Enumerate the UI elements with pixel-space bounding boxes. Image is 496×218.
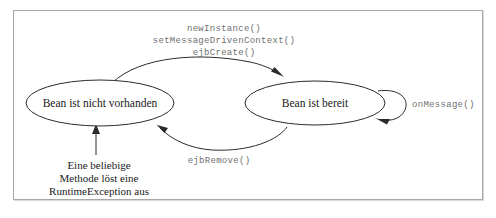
transition-create (112, 57, 284, 83)
create-label-line-3: ejbCreate() (193, 48, 256, 58)
create-arrowhead (271, 67, 284, 77)
state-ready-label: Bean ist bereit (282, 97, 349, 109)
state-diagram: Bean ist nicht vorhanden Bean ist bereit… (0, 0, 496, 218)
diagram-canvas: Bean ist nicht vorhanden Bean ist bereit… (0, 0, 496, 218)
state-not-existing[interactable]: Bean ist nicht vorhanden (26, 80, 174, 126)
transition-remove (155, 123, 287, 150)
create-arc-path (112, 57, 280, 83)
create-label-line-1: newInstance() (187, 24, 261, 34)
create-label-line-2: setMessageDrivenContext() (153, 36, 296, 46)
note-line-2: Methode löst eine (60, 172, 139, 184)
self-loop-arrowhead (375, 118, 390, 125)
transition-runtime-exception (92, 124, 100, 155)
note-line-1: Eine beliebige (67, 159, 130, 171)
remove-arc-path (160, 127, 287, 150)
runtime-exception-note: Eine beliebige Methode löst eine Runtime… (49, 159, 149, 197)
remove-transition-label: ejbRemove() (188, 156, 251, 166)
remove-arrowhead (155, 123, 168, 133)
self-loop-transition-label: onMessage() (412, 100, 475, 110)
state-not-existing-label: Bean ist nicht vorhanden (43, 97, 158, 109)
create-transition-label: newInstance() setMessageDrivenContext() … (153, 24, 296, 58)
note-line-3: RuntimeException aus (49, 185, 149, 197)
state-ready[interactable]: Bean ist bereit (245, 81, 385, 125)
